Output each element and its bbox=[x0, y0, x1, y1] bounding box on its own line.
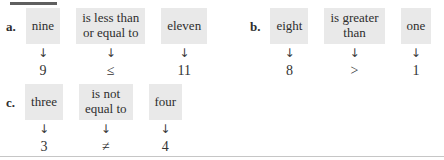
word-box: one bbox=[401, 8, 432, 44]
word-box: four bbox=[149, 84, 183, 120]
symbol-label: ≠ bbox=[102, 139, 110, 154]
problem-c: c. three ↓ 3 is not equal to ↓ ≠ four ↓ … bbox=[6, 84, 182, 154]
bottom-rule-divider bbox=[0, 156, 444, 157]
word-box: eleven bbox=[161, 8, 207, 44]
problem-b: b. eight ↓ 8 is greater than ↓ > one ↓ 1 bbox=[250, 8, 431, 78]
word-box: is less than or equal to bbox=[76, 8, 145, 44]
word-box: eight bbox=[270, 8, 308, 44]
down-arrow-icon: ↓ bbox=[101, 122, 111, 137]
word-box: nine bbox=[26, 8, 60, 44]
problem-a: a. nine ↓ 9 is less than or equal to ↓ ≤… bbox=[6, 8, 207, 78]
down-arrow-icon: ↓ bbox=[411, 46, 421, 61]
down-arrow-icon: ↓ bbox=[106, 46, 116, 61]
symbol-label: 8 bbox=[286, 63, 293, 78]
down-arrow-icon: ↓ bbox=[39, 122, 49, 137]
translation-column: one ↓ 1 bbox=[401, 8, 432, 78]
down-arrow-icon: ↓ bbox=[160, 122, 170, 137]
down-arrow-icon: ↓ bbox=[349, 46, 359, 61]
translation-column: eight ↓ 8 bbox=[270, 8, 308, 78]
symbol-label: 9 bbox=[39, 63, 46, 78]
down-arrow-icon: ↓ bbox=[179, 46, 189, 61]
word-box: is greater than bbox=[324, 8, 384, 44]
symbol-label: 4 bbox=[162, 139, 169, 154]
symbol-label: 11 bbox=[177, 63, 190, 78]
translation-column: is greater than ↓ > bbox=[324, 8, 384, 78]
translation-column: is not equal to ↓ ≠ bbox=[79, 84, 133, 154]
translation-column: nine ↓ 9 bbox=[26, 8, 60, 78]
translation-column: three ↓ 3 bbox=[25, 84, 63, 154]
symbol-label: 1 bbox=[412, 63, 419, 78]
word-box: is not equal to bbox=[79, 84, 133, 120]
down-arrow-icon: ↓ bbox=[38, 46, 48, 61]
symbol-label: ≤ bbox=[107, 63, 115, 78]
symbol-label: 3 bbox=[41, 139, 48, 154]
problem-label: a. bbox=[6, 8, 16, 35]
down-arrow-icon: ↓ bbox=[284, 46, 294, 61]
translation-column: four ↓ 4 bbox=[149, 84, 183, 154]
word-box: three bbox=[25, 84, 63, 120]
problem-label: c. bbox=[6, 84, 15, 111]
textbook-diagram: a. nine ↓ 9 is less than or equal to ↓ ≤… bbox=[0, 0, 444, 160]
translation-column: eleven ↓ 11 bbox=[161, 8, 207, 78]
top-rule-divider bbox=[10, 2, 57, 5]
translation-column: is less than or equal to ↓ ≤ bbox=[76, 8, 145, 78]
problem-label: b. bbox=[250, 8, 260, 35]
symbol-label: > bbox=[351, 63, 359, 78]
